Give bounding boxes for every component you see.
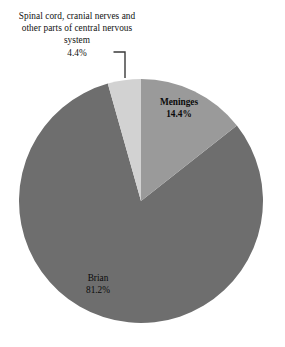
slice-label-brain: Brian 81.2% xyxy=(62,272,134,296)
slice-label-meninges: Meninges 14.4% xyxy=(143,96,215,120)
pie-chart: Spinal cord, cranial nerves and other pa… xyxy=(0,0,285,347)
slice-label-spinal-cord: Spinal cord, cranial nerves and other pa… xyxy=(14,10,140,59)
callout-line-4: system xyxy=(64,35,90,45)
callout-percent: 4.4% xyxy=(14,47,140,59)
meninges-percent: 14.4% xyxy=(143,108,215,120)
meninges-name: Meninges xyxy=(160,97,198,107)
callout-line-3: of central nervous xyxy=(64,23,132,33)
brain-name: Brian xyxy=(88,273,109,283)
brain-percent: 81.2% xyxy=(62,284,134,296)
callout-line-1: Spinal cord, cranial xyxy=(19,11,93,21)
